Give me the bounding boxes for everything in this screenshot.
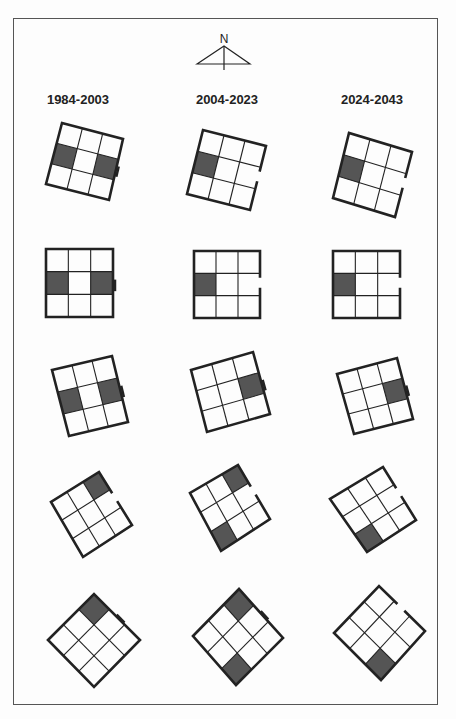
shaded-cell [222,465,249,493]
shaded-cell [79,594,110,625]
site-plan-figure [333,251,400,318]
site-plan-figure [194,251,260,318]
site-plan-figure [333,133,412,217]
site-plan-figure [46,249,115,317]
shaded-cell [224,589,254,621]
site-plan-figure [193,589,283,685]
shaded-cell [46,272,68,295]
shaded-cell [83,472,110,500]
site-plan-figure [187,130,266,210]
shaded-cell [211,521,238,551]
shaded-cell [365,648,395,680]
shaded-cell [355,524,384,552]
room-grid-diagram [0,0,456,719]
shaded-cell [333,273,355,295]
shaded-cell [91,272,113,295]
site-plan-figure [330,467,416,552]
shaded-cell [194,273,216,295]
shaded-cell [222,653,252,685]
site-plan-figure [48,594,140,687]
site-plan-figure [191,352,270,432]
site-plan-figure [46,123,123,200]
site-plan-figure [337,358,413,434]
north-arrow-icon [197,46,250,70]
site-plan-figure [52,356,128,436]
site-plan-figure [190,465,270,551]
site-plan-figure [51,472,132,557]
site-plan-figure [334,586,425,680]
